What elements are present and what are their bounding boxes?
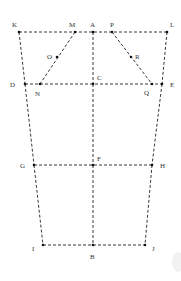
- label-m: M: [69, 21, 76, 29]
- point-h: [151, 164, 154, 167]
- point-b: [92, 244, 95, 247]
- label-n: N: [35, 90, 40, 98]
- label-p: P: [110, 21, 114, 29]
- label-j: J: [152, 245, 155, 253]
- label-c: C: [97, 74, 102, 82]
- point-e: [161, 83, 164, 86]
- point-r: [130, 56, 133, 59]
- point-q: [151, 83, 154, 86]
- point-a: [92, 31, 95, 34]
- point-d: [24, 83, 27, 86]
- point-o: [56, 56, 59, 59]
- point-p: [111, 31, 114, 34]
- label-o: O: [47, 53, 52, 61]
- point-m: [74, 31, 77, 34]
- label-b: B: [90, 253, 95, 261]
- label-h: H: [160, 162, 165, 170]
- point-i: [42, 244, 45, 247]
- point-k: [18, 31, 21, 34]
- label-f: F: [97, 155, 101, 163]
- point-f: [92, 164, 95, 167]
- point-g: [33, 164, 36, 167]
- segment-hj: [145, 165, 152, 245]
- segment-pq: [112, 32, 152, 84]
- point-c: [92, 83, 95, 86]
- point-j: [144, 244, 147, 247]
- label-q: Q: [144, 89, 149, 97]
- label-k: K: [12, 21, 17, 29]
- segment-le: [162, 32, 167, 84]
- segment-gi: [34, 165, 43, 245]
- label-i: I: [32, 245, 35, 253]
- label-d: D: [10, 81, 15, 89]
- label-l: L: [170, 21, 174, 29]
- point-l: [166, 31, 169, 34]
- label-r: R: [135, 53, 140, 61]
- pattern-diagram: KMAPLORDNCQEGFHIJB: [0, 0, 181, 281]
- label-a: A: [90, 21, 95, 29]
- dashed-lines: [19, 32, 167, 245]
- segment-kd: [19, 32, 25, 84]
- label-g: G: [20, 162, 25, 170]
- segment-eh: [152, 84, 162, 165]
- watermark-shape: [172, 252, 181, 272]
- label-e: E: [170, 81, 174, 89]
- point-n: [39, 83, 42, 86]
- segment-dg: [25, 84, 34, 165]
- vertex-labels: KMAPLORDNCQEGFHIJB: [10, 21, 174, 261]
